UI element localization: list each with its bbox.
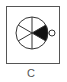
option-label: C	[0, 66, 62, 80]
filled-sector	[32, 25, 48, 41]
marker-circle-icon	[49, 30, 55, 36]
spoke-lower-left	[18, 33, 32, 41]
spoke-upper-left	[18, 25, 32, 33]
